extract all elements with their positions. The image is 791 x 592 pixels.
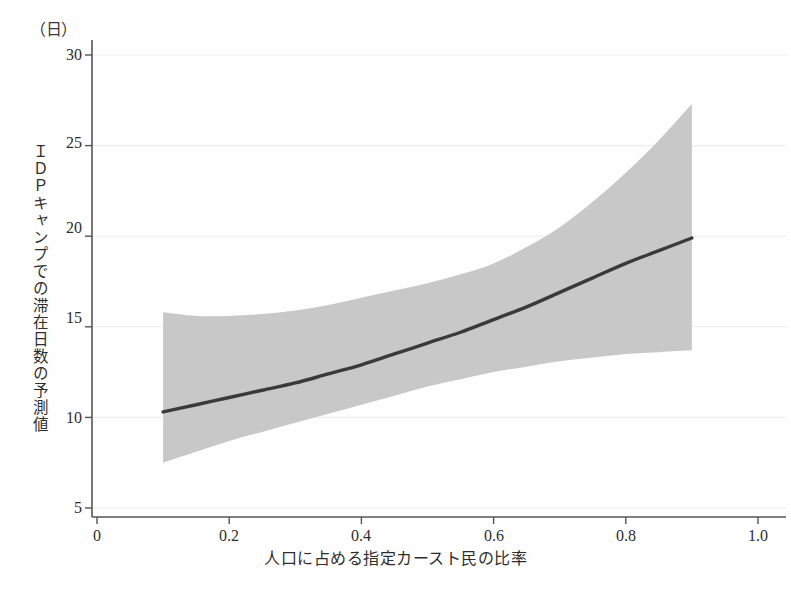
plot-area: [0, 0, 791, 592]
chart-figure: （日） ＩＤＰキャンプでの滞在日数の予測値 30 25 20 15 10 5 0…: [0, 0, 791, 592]
confidence-band: [163, 104, 692, 463]
